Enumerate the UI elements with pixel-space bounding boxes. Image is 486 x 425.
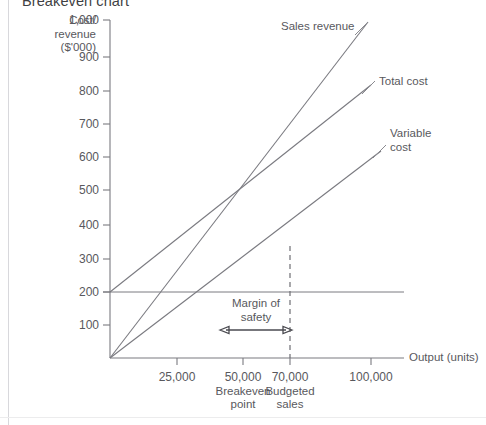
y-tick-label-100: 100 <box>55 318 99 332</box>
x-tick-label-70000: 70,000 <box>253 370 327 384</box>
sales-revenue-label: Sales revenue <box>281 20 355 34</box>
margin-of-safety-label: Margin of safety <box>196 297 316 324</box>
y-tick-label-500: 500 <box>55 183 99 197</box>
margin-of-safety-label-line-1: Margin of <box>196 297 316 311</box>
breakeven-chart-page: Breakeven chart <box>0 0 486 425</box>
y-tick-label-600: 600 <box>55 150 99 164</box>
x-axis-title: Output (units) <box>409 351 479 363</box>
y-tick-label-800: 800 <box>55 84 99 98</box>
y-tick-label-200: 200 <box>55 285 99 299</box>
y-tick-label-400: 400 <box>55 218 99 232</box>
y-axis-title-line-2: revenue <box>18 28 96 42</box>
variable-cost-pointer <box>373 145 386 158</box>
x-tick-label-100000: 100,000 <box>331 370 411 384</box>
total-cost-pointer <box>362 81 375 94</box>
y-tick-label-300: 300 <box>55 252 99 266</box>
total-cost-label: Total cost <box>379 75 428 89</box>
variable-cost-label-line-1: Variable <box>390 127 431 141</box>
y-tick-label-1000: 1,000 <box>55 13 99 27</box>
y-tick-label-700: 700 <box>55 117 99 131</box>
margin-of-safety-label-line-2: safety <box>196 311 316 325</box>
variable-cost-label: Variable cost <box>390 127 431 154</box>
budgeted-sales-label: Budgeted sales <box>253 385 327 411</box>
budgeted-sales-label-line-2: sales <box>253 398 327 411</box>
budgeted-sales-label-line-1: Budgeted <box>253 385 327 398</box>
y-tick-label-900: 900 <box>55 50 99 64</box>
total-cost-label-line-1: Total cost <box>379 75 428 89</box>
variable-cost-label-line-2: cost <box>390 141 431 155</box>
sales-revenue-pointer <box>355 22 368 35</box>
sales-revenue-label-line-1: Sales revenue <box>281 20 355 34</box>
